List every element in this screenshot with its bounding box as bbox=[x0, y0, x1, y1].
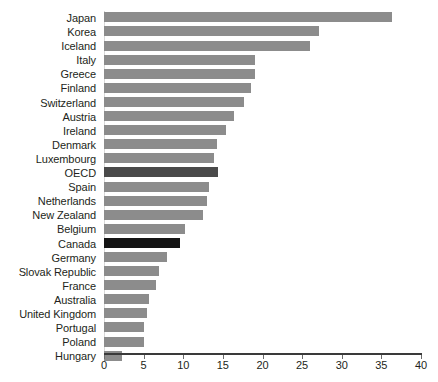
bar-row bbox=[104, 208, 421, 222]
bar bbox=[104, 252, 167, 262]
x-axis-tick-label: 10 bbox=[177, 359, 189, 371]
bar-row bbox=[104, 39, 421, 53]
bar-row bbox=[104, 251, 421, 265]
bar bbox=[104, 210, 203, 220]
bar bbox=[104, 69, 255, 79]
category-label: Finland bbox=[0, 81, 100, 95]
bar bbox=[104, 238, 180, 248]
bar bbox=[104, 83, 251, 93]
bar bbox=[104, 139, 217, 149]
bar-row bbox=[104, 237, 421, 251]
x-axis-tick-label: 30 bbox=[336, 359, 348, 371]
category-label: Iceland bbox=[0, 39, 100, 53]
category-label: Portugal bbox=[0, 321, 100, 335]
bar bbox=[104, 12, 392, 22]
plot-area bbox=[104, 11, 421, 350]
category-label: OECD bbox=[0, 166, 100, 180]
x-axis-tick-label: 5 bbox=[141, 359, 147, 371]
category-label: Korea bbox=[0, 25, 100, 39]
category-label: Japan bbox=[0, 11, 100, 25]
bar-row bbox=[104, 152, 421, 166]
category-label: France bbox=[0, 279, 100, 293]
category-label: Austria bbox=[0, 110, 100, 124]
category-label: Poland bbox=[0, 335, 100, 349]
category-label: Spain bbox=[0, 180, 100, 194]
x-axis-tick-label: 25 bbox=[296, 359, 308, 371]
bar-row bbox=[104, 222, 421, 236]
bar-row bbox=[104, 67, 421, 81]
bar bbox=[104, 294, 149, 304]
bar-row bbox=[104, 53, 421, 67]
bar-row bbox=[104, 293, 421, 307]
category-label: Denmark bbox=[0, 138, 100, 152]
category-label: Australia bbox=[0, 293, 100, 307]
category-label: Hungary bbox=[0, 349, 100, 363]
category-label: Ireland bbox=[0, 124, 100, 138]
category-label: Canada bbox=[0, 237, 100, 251]
bar-row bbox=[104, 279, 421, 293]
bar bbox=[104, 153, 214, 163]
bar bbox=[104, 224, 185, 234]
bar-chart: JapanKoreaIcelandItalyGreeceFinlandSwitz… bbox=[0, 0, 438, 382]
x-axis-tick-label: 40 bbox=[415, 359, 427, 371]
bar-row bbox=[104, 194, 421, 208]
category-label: Netherlands bbox=[0, 194, 100, 208]
category-label: Belgium bbox=[0, 222, 100, 236]
x-axis-tick-label: 15 bbox=[217, 359, 229, 371]
bar bbox=[104, 266, 159, 276]
bar-row bbox=[104, 81, 421, 95]
category-label: Greece bbox=[0, 67, 100, 81]
category-label: United Kingdom bbox=[0, 307, 100, 321]
bar-row bbox=[104, 11, 421, 25]
category-axis-labels: JapanKoreaIcelandItalyGreeceFinlandSwitz… bbox=[0, 11, 100, 350]
bar-row bbox=[104, 335, 421, 349]
category-label: Italy bbox=[0, 53, 100, 67]
bar bbox=[104, 111, 234, 121]
bar-row bbox=[104, 96, 421, 110]
bar bbox=[104, 125, 226, 135]
x-axis-tick-label: 35 bbox=[375, 359, 387, 371]
bar-row bbox=[104, 25, 421, 39]
bar-row bbox=[104, 166, 421, 180]
bar-row bbox=[104, 265, 421, 279]
bar bbox=[104, 308, 147, 318]
bar bbox=[104, 280, 156, 290]
bar-row bbox=[104, 321, 421, 335]
bar bbox=[104, 182, 209, 192]
bar bbox=[104, 196, 207, 206]
bar bbox=[104, 167, 218, 177]
category-label: Slovak Republic bbox=[0, 265, 100, 279]
bar bbox=[104, 41, 310, 51]
bar-row bbox=[104, 124, 421, 138]
bar bbox=[104, 97, 244, 107]
category-label: Switzerland bbox=[0, 96, 100, 110]
bar-row bbox=[104, 110, 421, 124]
x-axis-tick-label: 0 bbox=[101, 359, 107, 371]
bar-row bbox=[104, 138, 421, 152]
bar bbox=[104, 55, 255, 65]
category-label: Germany bbox=[0, 251, 100, 265]
x-axis-tick-label: 20 bbox=[256, 359, 268, 371]
bar bbox=[104, 322, 144, 332]
bar bbox=[104, 26, 319, 36]
category-label: Luxembourg bbox=[0, 152, 100, 166]
bar-row bbox=[104, 180, 421, 194]
bar bbox=[104, 337, 144, 347]
category-label: New Zealand bbox=[0, 208, 100, 222]
bar-row bbox=[104, 307, 421, 321]
